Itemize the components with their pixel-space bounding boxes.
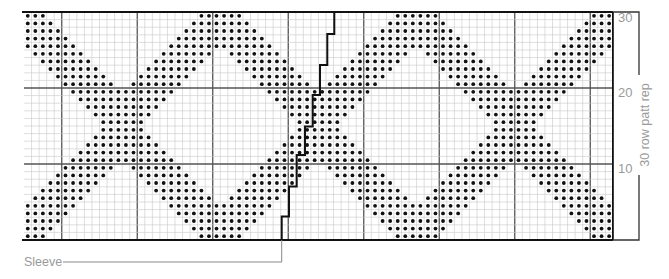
stitch-dot <box>298 166 302 170</box>
stitch-dot <box>509 143 513 147</box>
stitch-dot <box>184 44 188 48</box>
stitch-dot <box>577 75 581 79</box>
stitch-dot <box>547 151 551 155</box>
stitch-dot <box>41 60 45 64</box>
stitch-dot <box>456 212 460 216</box>
stitch-dot <box>441 44 445 48</box>
stitch-dot <box>124 136 128 140</box>
stitch-dot <box>94 98 98 102</box>
stitch-dot <box>592 189 596 193</box>
stitch-dot <box>554 67 558 71</box>
stitch-dot <box>237 219 241 223</box>
stitch-dot <box>456 204 460 208</box>
stitch-dot <box>86 158 90 162</box>
stitch-dot <box>222 29 226 33</box>
stitch-dot <box>64 75 68 79</box>
stitch-dot <box>434 219 438 223</box>
stitch-dot <box>351 82 355 86</box>
stitch-dot <box>524 98 528 102</box>
stitch-dot <box>200 227 204 231</box>
stitch-dot <box>200 37 204 41</box>
stitch-dot <box>486 166 490 170</box>
stitch-dot <box>56 219 60 223</box>
stitch-dot <box>320 128 324 132</box>
stitch-dot <box>464 75 468 79</box>
stitch-dot <box>320 158 324 162</box>
stitch-dot <box>403 52 407 56</box>
stitch-dot <box>245 22 249 26</box>
stitch-dot <box>64 44 68 48</box>
stitch-dot <box>335 82 339 86</box>
stitch-dot <box>267 44 271 48</box>
stitch-dot <box>366 90 370 94</box>
stitch-dot <box>585 67 589 71</box>
stitch-dot <box>539 82 543 86</box>
stitch-dot <box>237 44 241 48</box>
stitch-dot <box>569 196 573 200</box>
stitch-dot <box>600 37 604 41</box>
stitch-dot <box>532 151 536 155</box>
stitch-dot <box>86 174 90 178</box>
stitch-dot <box>539 151 543 155</box>
stitch-dot <box>547 98 551 102</box>
stitch-dot <box>502 90 506 94</box>
stitch-dot <box>441 189 445 193</box>
stitch-dot <box>592 60 596 64</box>
stitch-dot <box>222 204 226 208</box>
stitch-dot <box>494 166 498 170</box>
stitch-dot <box>177 75 181 79</box>
stitch-dot <box>547 75 551 79</box>
stitch-dot <box>177 67 181 71</box>
stitch-dot <box>49 212 53 216</box>
stitch-dot <box>237 234 241 238</box>
stitch-dot <box>56 181 60 185</box>
stitch-dot <box>230 37 234 41</box>
stitch-dot <box>139 151 143 155</box>
stitch-dot <box>177 52 181 56</box>
stitch-dot <box>147 113 151 117</box>
stitch-dot <box>275 196 279 200</box>
stitch-dot <box>381 174 385 178</box>
stitch-dot <box>381 60 385 64</box>
stitch-dot <box>464 44 468 48</box>
stitch-dot <box>418 219 422 223</box>
stitch-dot <box>577 204 581 208</box>
stitch-dot <box>509 113 513 117</box>
stitch-dot <box>411 219 415 223</box>
stitch-dot <box>192 227 196 231</box>
stitch-dot <box>381 44 385 48</box>
stitch-dot <box>449 181 453 185</box>
stitch-dot <box>162 166 166 170</box>
stitch-dot <box>366 60 370 64</box>
stitch-dot <box>260 37 264 41</box>
stitch-dot <box>101 174 105 178</box>
stitch-dot <box>441 67 445 71</box>
stitch-dot <box>154 181 158 185</box>
stitch-dot <box>49 44 53 48</box>
stitch-dot <box>298 98 302 102</box>
stitch-dot <box>169 67 173 71</box>
stitch-dot <box>517 143 521 147</box>
stitch-dot <box>328 128 332 132</box>
stitch-dot <box>222 14 226 18</box>
stitch-dot <box>71 90 75 94</box>
stitch-dot <box>388 212 392 216</box>
stitch-dot <box>502 105 506 109</box>
stitch-dot <box>147 75 151 79</box>
stitch-dot <box>71 166 75 170</box>
stitch-dot <box>116 98 120 102</box>
stitch-dot <box>79 98 83 102</box>
stitch-dot <box>71 181 75 185</box>
stitch-dot <box>200 60 204 64</box>
stitch-dot <box>71 44 75 48</box>
stitch-dot <box>562 189 566 193</box>
stitch-dot <box>56 212 60 216</box>
stitch-dot <box>320 120 324 124</box>
stitch-dot <box>56 189 60 193</box>
stitch-dot <box>486 113 490 117</box>
stitch-dot <box>396 212 400 216</box>
stitch-dot <box>230 52 234 56</box>
stitch-dot <box>592 227 596 231</box>
stitch-dot <box>562 82 566 86</box>
stitch-dot <box>554 158 558 162</box>
